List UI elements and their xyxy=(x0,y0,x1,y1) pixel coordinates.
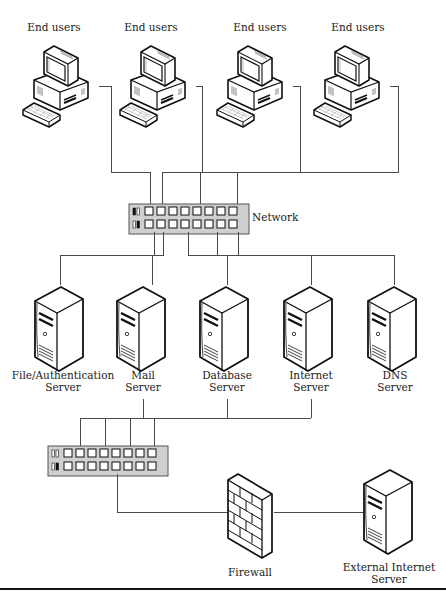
switch-port xyxy=(112,462,120,470)
server-label-line2: Server xyxy=(293,381,329,394)
end-user-computer-1 xyxy=(23,46,88,127)
switch-port xyxy=(157,220,165,228)
switch-port xyxy=(217,207,225,215)
switch-port xyxy=(100,449,108,457)
end-user-label-4: End users xyxy=(331,21,384,34)
switch-port xyxy=(124,449,132,457)
server-label-line2: Server xyxy=(209,381,245,394)
firewall xyxy=(228,474,272,558)
status-led xyxy=(137,208,140,215)
computer-icon xyxy=(217,46,282,127)
server-dns xyxy=(368,287,416,371)
switch-port xyxy=(229,220,237,228)
server-tower-icon xyxy=(368,287,416,371)
switch-port xyxy=(148,449,156,457)
server-tower-icon xyxy=(364,470,412,554)
switch-port xyxy=(145,220,153,228)
server-database xyxy=(200,287,248,371)
switch-port xyxy=(124,462,132,470)
computer-icon xyxy=(314,46,379,127)
computer-icon xyxy=(120,46,185,127)
status-led xyxy=(137,221,140,228)
switch-port xyxy=(136,449,144,457)
switch-port xyxy=(169,220,177,228)
switch-port xyxy=(64,462,72,470)
wire xyxy=(196,86,202,172)
end-user-computer-2 xyxy=(120,46,185,127)
status-led xyxy=(133,221,136,228)
server-label-line2: Server xyxy=(125,381,161,394)
switch-port xyxy=(205,220,213,228)
status-led xyxy=(56,463,59,470)
switch-port xyxy=(169,207,177,215)
status-led xyxy=(56,450,59,457)
switch-port xyxy=(100,462,108,470)
firewall-label: Firewall xyxy=(228,566,272,579)
switch-port xyxy=(205,207,213,215)
status-led xyxy=(133,208,136,215)
end-user-label-3: End users xyxy=(233,21,286,34)
server-label-line2: Server xyxy=(45,381,81,394)
switch-port xyxy=(181,207,189,215)
wire xyxy=(80,418,311,447)
end-user-label-2: End users xyxy=(124,21,177,34)
server-tower-icon xyxy=(35,287,83,371)
dmz-switch xyxy=(48,446,168,476)
switch-port xyxy=(148,462,156,470)
switch-port xyxy=(145,207,153,215)
server-tower-icon xyxy=(284,287,332,371)
switch-port xyxy=(181,220,189,228)
server-internet xyxy=(284,287,332,371)
server-tower-icon xyxy=(117,287,165,371)
status-led xyxy=(52,450,55,457)
network-diagram xyxy=(0,0,446,597)
switch-port xyxy=(112,449,120,457)
computer-icon xyxy=(23,46,88,127)
switch-port xyxy=(193,220,201,228)
server-label-line2: Server xyxy=(377,381,413,394)
end-user-computer-4 xyxy=(314,46,379,127)
status-led xyxy=(52,463,55,470)
wire xyxy=(188,232,394,285)
server-to-dmz-switch-wires xyxy=(80,399,311,447)
external-server-label-line2: Server xyxy=(371,573,407,586)
switch-port xyxy=(64,449,72,457)
figure-bottom-rule xyxy=(0,588,446,590)
switch-port xyxy=(88,462,96,470)
switch-port xyxy=(229,207,237,215)
network-switch xyxy=(129,204,249,234)
firewall-icon xyxy=(228,474,272,558)
switch-port xyxy=(88,449,96,457)
switch-port xyxy=(193,207,201,215)
wire xyxy=(117,474,228,512)
wire xyxy=(60,232,154,285)
switch-port xyxy=(136,462,144,470)
end-user-label-1: End users xyxy=(27,21,80,34)
end-user-computer-3 xyxy=(217,46,282,127)
server-mail xyxy=(117,287,165,371)
wire xyxy=(293,86,300,172)
server-tower-icon xyxy=(200,287,248,371)
switch-to-server-wires xyxy=(60,232,394,285)
switch-port xyxy=(157,207,165,215)
switch-port xyxy=(217,220,225,228)
switch-port xyxy=(76,462,84,470)
network-switch-label: Network xyxy=(252,211,298,224)
external-internet-server xyxy=(364,470,412,554)
server-file-authentication xyxy=(35,287,83,371)
switch-port xyxy=(76,449,84,457)
